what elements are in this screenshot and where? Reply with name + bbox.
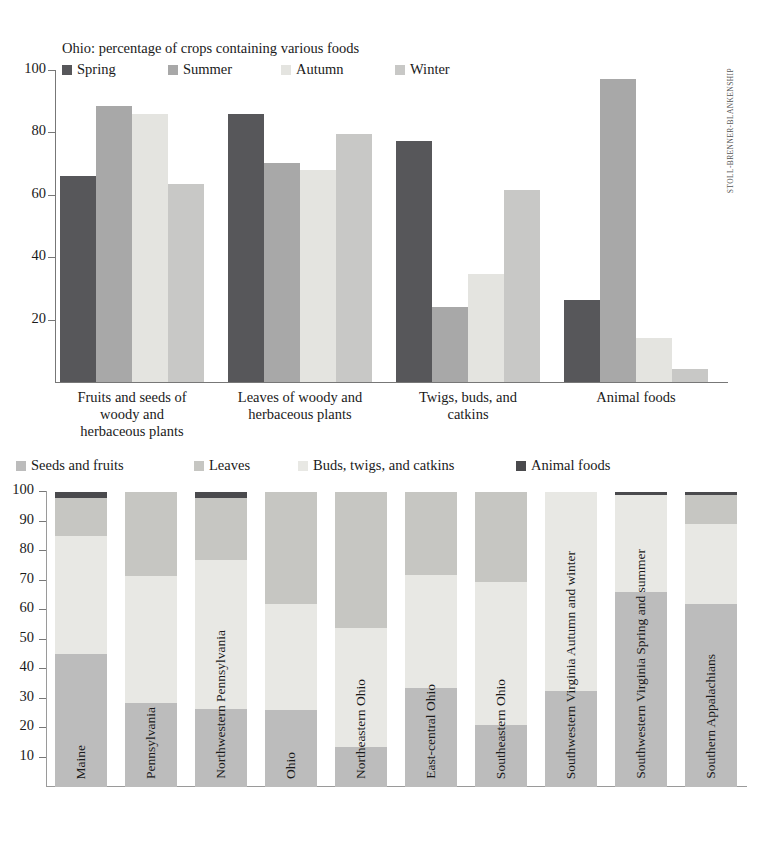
chart2-y-tick	[39, 727, 46, 728]
chart2-y-tick-label: 10	[0, 747, 34, 764]
chart2-stacked-column: East-central Ohio	[405, 492, 457, 787]
chart1-bar-autumn	[300, 170, 336, 382]
chart1-category-label-line: Fruits and seeds of	[42, 389, 222, 406]
chart2-legend-item: Leaves	[194, 457, 250, 474]
chart2-legend: Seeds and fruitsLeavesBuds, twigs, and c…	[16, 457, 496, 475]
chart2-segment-buds,	[265, 604, 317, 710]
chart1-bar-group	[396, 70, 540, 382]
chart2-stacked-column: Pennsylvania	[125, 492, 177, 787]
chart2-y-tick	[39, 580, 46, 581]
chart2-y-tick	[39, 668, 46, 669]
chart2-column-label: Northwestern Pennsylvania	[213, 630, 229, 779]
chart2-segment-buds,	[685, 524, 737, 604]
chart2-legend-label: Animal foods	[531, 457, 610, 474]
chart2-segment-leaves	[125, 492, 177, 576]
chart2-column-label: Southwestern Virginia Spring and summer	[633, 549, 649, 779]
chart1-bar-group	[228, 70, 372, 382]
chart2-stacked-column: Southwestern Virginia Autumn and winter	[545, 492, 597, 787]
photo-credit: STOLL-BRENNER-BLANKENSHIP	[726, 68, 735, 193]
chart1-axis-line-horizontal	[55, 382, 728, 383]
chart1-bar-autumn	[132, 114, 168, 382]
chart2-stacked-column: Southeastern Ohio	[475, 492, 527, 787]
chart1-plot-area	[56, 70, 728, 382]
chart2-segment-animal	[685, 492, 737, 495]
chart2-y-tick	[39, 639, 46, 640]
chart2-column-label: Southwestern Virginia Autumn and winter	[563, 551, 579, 779]
chart2-y-tick	[39, 550, 46, 551]
chart1-y-tick-label: 80	[4, 122, 46, 139]
chart1-y-tick	[48, 257, 55, 258]
chart2-column-label: Maine	[73, 745, 89, 780]
chart1-bar-winter	[336, 134, 372, 382]
chart1-bar-summer	[264, 163, 300, 382]
chart2-stacked-column: Ohio	[265, 492, 317, 787]
chart1-y-tick	[48, 320, 55, 321]
chart2-y-tick-label: 40	[0, 658, 34, 675]
chart2-segment-leaves	[475, 492, 527, 582]
chart1-category-label-line: herbaceous plants	[210, 406, 390, 423]
chart1-bar-summer	[600, 79, 636, 382]
chart1-bar-winter	[672, 369, 708, 382]
chart1-category-label-line: herbaceous plants	[42, 423, 222, 440]
chart2-segment-leaves	[195, 498, 247, 560]
chart1-bar-group	[564, 70, 708, 382]
chart2-column-label: Southeastern Ohio	[493, 679, 509, 779]
chart2-stacked-column: Southwestern Virginia Spring and summer	[615, 492, 667, 787]
chart1-bar-group	[60, 70, 204, 382]
chart2-legend-label: Buds, twigs, and catkins	[313, 457, 454, 474]
chart2-stacked-column: Southern Appalachians	[685, 492, 737, 787]
chart2-legend-item: Animal foods	[516, 457, 610, 474]
chart2-y-tick-label: 60	[0, 599, 34, 616]
chart2-y-tick-label: 20	[0, 717, 34, 734]
chart1-category-label: Fruits and seeds ofwoody andherbaceous p…	[42, 389, 222, 440]
chart1-y-tick	[48, 70, 55, 71]
chart2-stacked-column: Maine	[55, 492, 107, 787]
chart1-category-label-line: Twigs, buds, and	[378, 389, 558, 406]
chart2-column-label: Northeastern Ohio	[353, 679, 369, 779]
chart1-y-axis: 20406080100	[0, 0, 56, 400]
chart2-segment-animal	[615, 492, 667, 495]
chart2-segment-leaves	[265, 492, 317, 604]
chart1-y-tick-label: 100	[4, 60, 46, 77]
chart2-y-axis: 102030405060708090100	[0, 452, 47, 792]
chart2-y-tick	[39, 491, 46, 492]
chart1-bar-spring	[60, 176, 96, 382]
chart1-y-tick-label: 20	[4, 310, 46, 327]
chart2-y-tick-label: 90	[0, 511, 34, 528]
chart2-segment-animal	[55, 492, 107, 498]
chart1-category-label: Twigs, buds, andcatkins	[378, 389, 558, 423]
chart1-bar-spring	[564, 300, 600, 382]
chart1-bar-autumn	[468, 274, 504, 382]
chart1-bar-summer	[96, 106, 132, 382]
grouped-bar-chart-ohio-crops: Ohio: percentage of crops containing var…	[0, 0, 771, 445]
chart2-stacked-column: Northeastern Ohio	[335, 492, 387, 787]
chart2-segment-leaves	[335, 492, 387, 628]
chart1-category-label-line: Leaves of woody and	[210, 389, 390, 406]
chart2-segment-animal	[195, 492, 247, 498]
legend-swatch-icon	[516, 461, 526, 471]
chart1-y-tick	[48, 132, 55, 133]
chart1-y-tick-label: 60	[4, 185, 46, 202]
chart2-legend-label: Leaves	[209, 457, 250, 474]
chart1-category-label: Leaves of woody andherbaceous plants	[210, 389, 390, 423]
chart2-y-tick-label: 30	[0, 688, 34, 705]
chart2-stacked-column: Northwestern Pennsylvania	[195, 492, 247, 787]
chart1-bar-autumn	[636, 338, 672, 382]
chart2-y-tick-label: 70	[0, 570, 34, 587]
chart1-bar-summer	[432, 307, 468, 383]
legend-swatch-icon	[194, 461, 204, 471]
chart2-column-label: East-central Ohio	[423, 684, 439, 779]
chart2-segment-leaves	[405, 492, 457, 575]
chart1-y-tick-label: 40	[4, 247, 46, 264]
chart2-y-tick	[39, 757, 46, 758]
chart2-y-tick-label: 50	[0, 629, 34, 646]
chart2-y-tick	[39, 521, 46, 522]
chart1-bar-spring	[228, 114, 264, 382]
chart2-segment-leaves	[55, 498, 107, 536]
chart1-category-label-line: catkins	[378, 406, 558, 423]
chart1-category-label: Animal foods	[546, 389, 726, 406]
chart1-bar-spring	[396, 141, 432, 382]
chart2-y-tick-label: 80	[0, 540, 34, 557]
chart1-category-label-line: Animal foods	[546, 389, 726, 406]
stacked-bar-chart-regional-diet: Seeds and fruitsLeavesBuds, twigs, and c…	[0, 452, 771, 845]
